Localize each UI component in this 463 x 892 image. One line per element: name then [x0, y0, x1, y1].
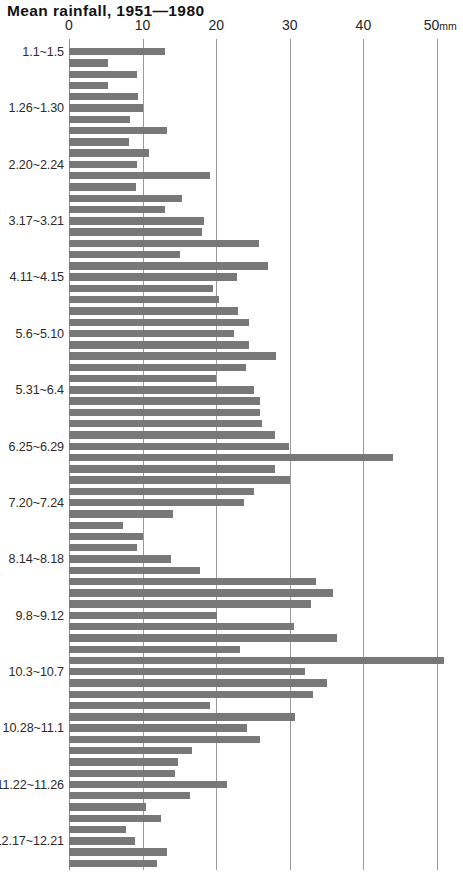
- category-label: 6.25~6.29: [9, 440, 64, 454]
- bar: [69, 837, 135, 844]
- bar-row: [69, 532, 437, 543]
- bar: [69, 296, 219, 303]
- bar-row: [69, 374, 437, 385]
- bar: [69, 860, 157, 867]
- bar-row: [69, 194, 437, 205]
- bar-row: [69, 385, 437, 396]
- bar: [69, 679, 327, 686]
- bar-row: [69, 611, 437, 622]
- bar-row: [69, 723, 437, 734]
- bar: [69, 499, 244, 506]
- bar-row: [69, 160, 437, 171]
- bar-row: [69, 137, 437, 148]
- bar-row: [69, 599, 437, 610]
- bar: [69, 138, 129, 145]
- bar-row: [69, 588, 437, 599]
- bar: [69, 724, 247, 731]
- bar-row: [69, 363, 437, 374]
- bar: [69, 307, 238, 314]
- bar: [69, 431, 275, 438]
- bar: [69, 104, 143, 111]
- category-label: 10.28~11.1: [3, 721, 64, 735]
- bar: [69, 262, 268, 269]
- category-label: 1.1~1.5: [22, 45, 64, 59]
- category-axis: 1.1~1.51.26~1.302.20~2.243.17~3.214.11~4…: [0, 47, 64, 870]
- bar-row: [69, 81, 437, 92]
- page-title: Mean rainfall, 1951—1980: [7, 2, 204, 20]
- bar: [69, 195, 182, 202]
- bar: [69, 375, 216, 382]
- category-label: 7.20~7.24: [9, 496, 64, 510]
- bar: [69, 465, 275, 472]
- bar-row: [69, 780, 437, 791]
- bar-row: [69, 802, 437, 813]
- bar-row: [69, 115, 437, 126]
- category-label: 1.26~1.30: [9, 101, 64, 115]
- bar: [69, 206, 165, 213]
- bar-row: [69, 70, 437, 81]
- bar-row: [69, 408, 437, 419]
- bar-row: [69, 318, 437, 329]
- bar-row: [69, 47, 437, 58]
- bar: [69, 116, 130, 123]
- bar: [69, 848, 167, 855]
- bar: [69, 217, 204, 224]
- rainfall-chart: Mean rainfall, 1951—1980 1.1~1.51.26~1.3…: [0, 0, 463, 892]
- bar: [69, 736, 260, 743]
- bar-row: [69, 295, 437, 306]
- bar: [69, 240, 259, 247]
- bar-row: [69, 847, 437, 858]
- bar-row: [69, 329, 437, 340]
- bar-row: [69, 746, 437, 757]
- bar-row: [69, 543, 437, 554]
- bar-row: [69, 148, 437, 159]
- bar-row: [69, 453, 437, 464]
- category-label: 9.8~9.12: [15, 609, 64, 623]
- bar: [69, 71, 137, 78]
- tick-label-10: 10: [135, 17, 151, 33]
- bar: [69, 770, 175, 777]
- bar: [69, 59, 108, 66]
- bar: [69, 747, 192, 754]
- bar: [69, 82, 108, 89]
- bar: [69, 792, 190, 799]
- category-label: 12.17~12.21: [0, 834, 64, 848]
- bar: [69, 623, 294, 630]
- bar-row: [69, 442, 437, 453]
- bar: [69, 172, 210, 179]
- tick-label-40: 40: [356, 17, 372, 33]
- bar: [69, 702, 210, 709]
- bar-row: [69, 701, 437, 712]
- bar: [69, 386, 254, 393]
- bar: [69, 149, 149, 156]
- bar: [69, 600, 311, 607]
- bar-row: [69, 182, 437, 193]
- bar: [69, 567, 200, 574]
- bar: [69, 589, 333, 596]
- category-label: 8.14~8.18: [9, 552, 64, 566]
- bar: [69, 657, 444, 664]
- bar: [69, 815, 161, 822]
- bar-row: [69, 475, 437, 486]
- gridline-50: [437, 39, 438, 870]
- bar: [69, 341, 249, 348]
- bar-row: [69, 103, 437, 114]
- category-label: 11.22~11.26: [0, 778, 64, 792]
- category-label: 5.31~6.4: [15, 383, 64, 397]
- bar-row: [69, 735, 437, 746]
- bar: [69, 352, 276, 359]
- bar: [69, 397, 260, 404]
- bar-row: [69, 464, 437, 475]
- bar: [69, 183, 136, 190]
- bar: [69, 330, 234, 337]
- bar: [69, 454, 393, 461]
- bar: [69, 555, 171, 562]
- bar-row: [69, 577, 437, 588]
- category-label: 5.6~5.10: [15, 327, 64, 341]
- bar: [69, 476, 290, 483]
- bar: [69, 713, 295, 720]
- bar: [69, 319, 249, 326]
- bar: [69, 161, 137, 168]
- plot-area: 01020304050mm: [69, 47, 437, 870]
- bar-row: [69, 859, 437, 870]
